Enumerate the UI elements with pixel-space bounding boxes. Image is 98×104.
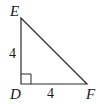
vertex-label-d: D	[9, 86, 21, 102]
vertex-label-e: E	[9, 3, 19, 19]
right-angle-marker	[21, 74, 31, 84]
side-label-df: 4	[47, 86, 54, 101]
triangle-diagram: E D F 4 4	[0, 0, 98, 104]
side-label-de: 4	[9, 46, 16, 61]
vertex-label-f: F	[85, 86, 96, 102]
